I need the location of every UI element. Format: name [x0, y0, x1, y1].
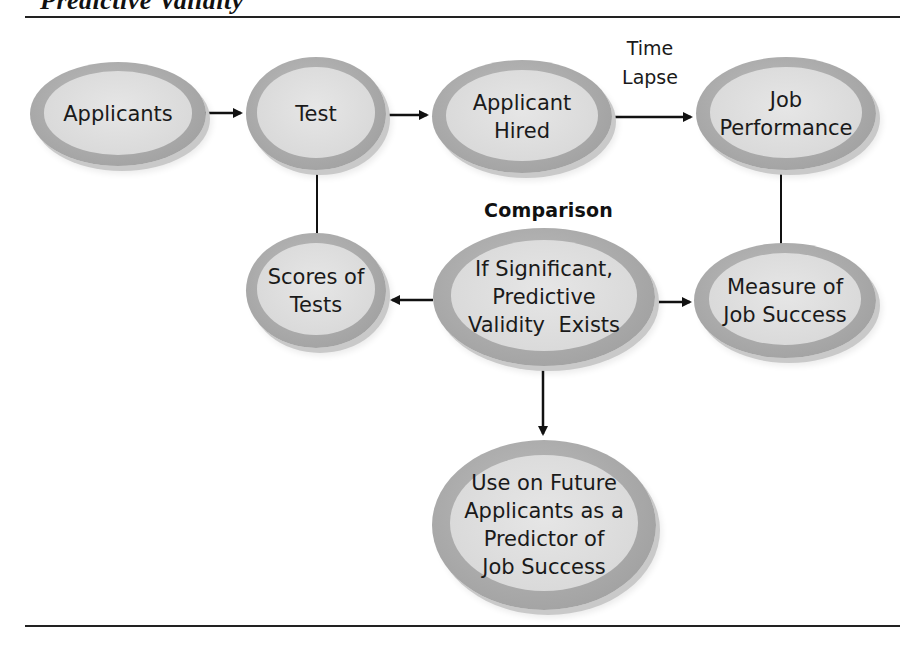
time-lapse-label: Time Lapse	[610, 34, 690, 92]
node-label: Tests	[268, 291, 365, 319]
node-comparison-result: If Significant, Predictive Validity Exis…	[433, 228, 655, 366]
time-lapse-line: Lapse	[610, 63, 690, 92]
node-label: Performance	[719, 114, 852, 142]
node-label: Job	[719, 86, 852, 114]
node-applicants: Applicants	[30, 62, 206, 166]
node-label: Validity Exists	[468, 311, 620, 339]
node-label: Applicants as a	[464, 497, 624, 525]
node-applicant-hired: Applicant Hired	[432, 60, 612, 173]
node-measure-of-job-success: Measure of Job Success	[694, 243, 876, 358]
node-job-performance: Job Performance	[696, 57, 876, 170]
node-label: Use on Future	[464, 469, 624, 497]
node-label: Applicant	[473, 89, 572, 117]
node-scores-of-tests: Scores of Tests	[246, 233, 386, 348]
node-label: Measure of	[723, 273, 847, 301]
node-label: Scores of	[268, 263, 365, 291]
node-label: If Significant,	[468, 255, 620, 283]
node-label: Job Success	[723, 301, 847, 329]
node-label: Hired	[473, 117, 572, 145]
node-label: Applicants	[63, 100, 173, 128]
node-label: Test	[295, 100, 336, 128]
node-label: Predictive	[468, 283, 620, 311]
node-label: Job Success	[464, 553, 624, 581]
node-label: Predictor of	[464, 525, 624, 553]
node-future-use: Use on Future Applicants as a Predictor …	[432, 440, 656, 610]
node-test: Test	[246, 57, 386, 170]
time-lapse-line: Time	[610, 34, 690, 63]
comparison-label: Comparison	[484, 199, 613, 221]
